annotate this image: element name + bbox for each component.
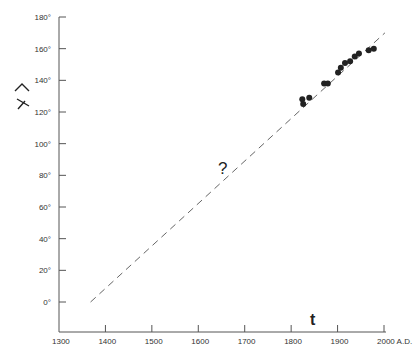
data-point	[347, 58, 353, 64]
data-point	[338, 65, 344, 71]
y-tick-label: 100°	[34, 140, 51, 149]
y-tick-label: 0°	[43, 298, 51, 307]
y-axis-label-angle-symbol	[15, 84, 29, 109]
y-axis: 0°20°40°60°80°100°120°140°160°180°	[34, 13, 66, 332]
data-point	[356, 50, 362, 56]
x-tick-label: 2000 A.D.	[377, 337, 412, 346]
data-point	[366, 47, 372, 53]
x-tick-label: 1400	[98, 337, 116, 346]
y-tick-label: 20°	[39, 266, 51, 275]
data-point	[342, 60, 348, 66]
x-tick-label: 1700	[238, 337, 256, 346]
y-tick-label: 40°	[39, 235, 51, 244]
y-tick-label: 140°	[34, 76, 51, 85]
data-points	[299, 46, 377, 107]
data-point	[325, 81, 331, 87]
y-tick-label: 80°	[39, 171, 51, 180]
x-axis: 13001400150016001700180019002000 A.D.	[52, 325, 412, 346]
chart: 0°20°40°60°80°100°120°140°160°180° 13001…	[0, 0, 415, 355]
y-tick-label: 120°	[34, 108, 51, 117]
y-tick-label: 160°	[34, 45, 51, 54]
data-point	[371, 46, 377, 52]
data-point	[306, 95, 312, 101]
data-point	[300, 101, 306, 107]
x-tick-label: 1600	[191, 337, 209, 346]
x-tick-label: 1800	[284, 337, 302, 346]
x-axis-label-time: t	[310, 311, 316, 328]
y-tick-label: 180°	[34, 13, 51, 22]
x-tick-label: 1900	[331, 337, 349, 346]
question-mark-annotation: ?	[218, 159, 227, 178]
x-tick-label: 1300	[52, 337, 70, 346]
y-tick-label: 60°	[39, 203, 51, 212]
x-tick-label: 1500	[145, 337, 163, 346]
